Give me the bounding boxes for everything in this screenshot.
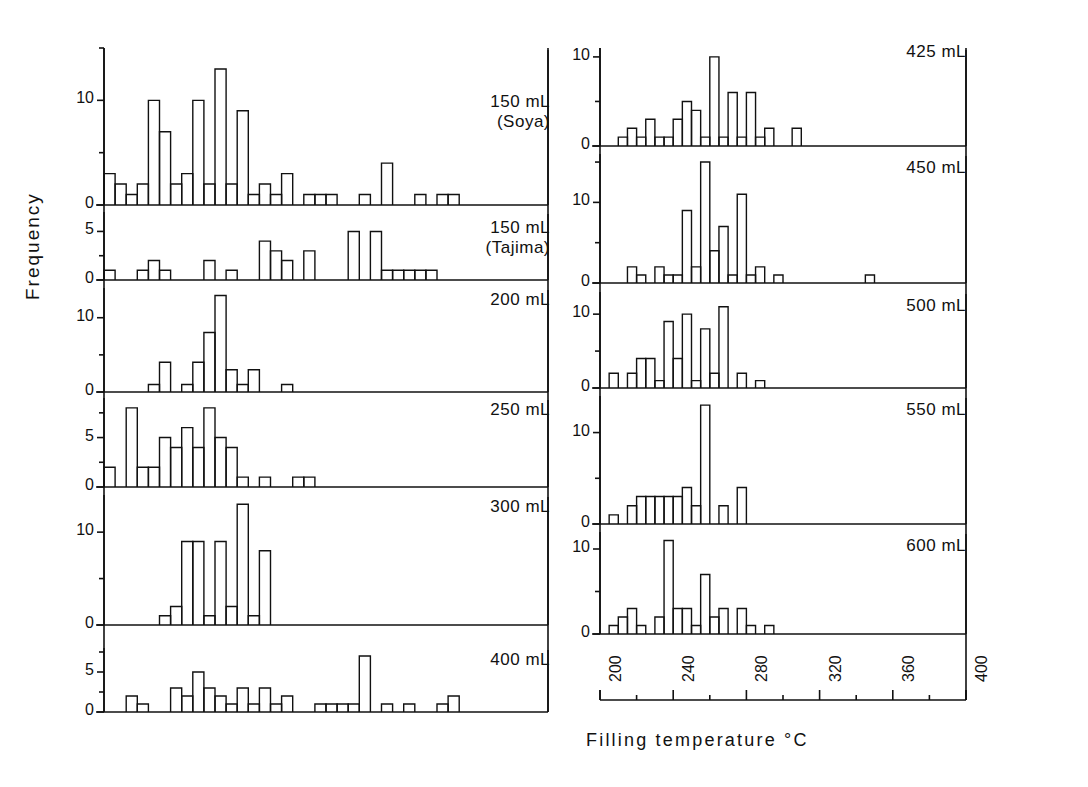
panel-label: 150 mL(Soya): [440, 92, 550, 132]
histogram-bar: [382, 704, 393, 712]
y-tick-label: 10: [70, 307, 94, 325]
histogram-bar: [148, 261, 159, 280]
histogram-bar: [237, 688, 248, 712]
histogram-bar: [348, 231, 359, 280]
histogram-bar: [701, 405, 710, 524]
histogram-bar: [248, 195, 259, 205]
y-tick-label: 10: [566, 46, 590, 64]
panel-label-line1: 200 mL: [490, 290, 550, 309]
histogram-bar: [710, 373, 719, 388]
histogram-bar: [756, 267, 765, 283]
histogram-bar: [326, 704, 337, 712]
histogram-bar: [126, 696, 137, 712]
histogram-bar: [664, 497, 673, 524]
histogram-bar: [126, 408, 137, 487]
panel-label-line1: 500 mL: [906, 296, 966, 315]
histogram-bar: [237, 111, 248, 205]
panel-label: 600 mL: [856, 536, 966, 556]
histogram-bar: [701, 575, 710, 635]
histogram-bar: [248, 616, 259, 625]
histogram-bar: [655, 381, 664, 388]
histogram-bar: [315, 704, 326, 712]
histogram-bar: [618, 137, 627, 146]
panel-label-line1: 400 mL: [490, 650, 550, 669]
histogram-bar: [404, 704, 415, 712]
histogram-bar: [271, 195, 282, 205]
histogram-bar: [682, 210, 691, 283]
histogram-bar: [664, 137, 673, 146]
histogram-bar: [737, 194, 746, 283]
histogram-bar: [655, 267, 664, 283]
histogram-bar: [737, 609, 746, 635]
panel-label: 500 mL: [856, 296, 966, 316]
histogram-bar: [237, 385, 248, 392]
panel-label-line2: (Soya): [440, 112, 550, 132]
histogram-bar: [382, 270, 393, 280]
histogram-bar: [664, 275, 673, 283]
y-tick-label: 0: [70, 701, 94, 719]
histogram-bar: [637, 137, 646, 146]
histogram-bar: [415, 195, 426, 205]
histogram-bar: [226, 704, 237, 712]
histogram-bar: [160, 616, 171, 625]
histogram-bar: [746, 275, 755, 283]
histogram-bar: [765, 626, 774, 635]
histogram-bar: [865, 275, 874, 283]
histogram-bar: [282, 174, 293, 205]
histogram-bar: [282, 696, 293, 712]
histogram-bar: [382, 163, 393, 205]
histogram-bar: [271, 704, 282, 712]
histogram-bar: [193, 447, 204, 487]
histogram-bar: [315, 195, 326, 205]
histogram-bar: [171, 184, 182, 205]
histogram-bar: [348, 704, 359, 712]
y-tick-label: 0: [566, 272, 590, 290]
histogram-bar: [673, 119, 682, 146]
histogram-bar: [609, 515, 618, 524]
histogram-bar: [226, 184, 237, 205]
panel-label-line1: 550 mL: [906, 400, 966, 419]
histogram-bar: [646, 497, 655, 524]
histogram-bar: [710, 57, 719, 146]
histogram-bar: [248, 370, 259, 392]
histogram-bar: [126, 195, 137, 205]
histogram-bar: [426, 270, 437, 280]
histogram-bar: [646, 358, 655, 388]
histogram-bar: [215, 69, 226, 205]
histogram-bar: [737, 137, 746, 146]
histogram-bar: [637, 358, 646, 388]
histogram-bar: [215, 696, 226, 712]
histogram-bar: [204, 408, 215, 487]
histogram-bar: [627, 373, 636, 388]
y-tick-label: 0: [70, 194, 94, 212]
histogram-bar: [701, 137, 710, 146]
histogram-bar: [646, 119, 655, 146]
histogram-bar: [293, 477, 304, 487]
histogram-bar: [226, 606, 237, 625]
histogram-bar: [437, 704, 448, 712]
histogram-bar: [226, 447, 237, 487]
y-tick-label: 0: [70, 476, 94, 494]
histogram-bar: [792, 128, 801, 146]
histogram-bar: [193, 362, 204, 392]
x-tick-label: 320: [827, 655, 845, 682]
histogram-bar: [664, 541, 673, 635]
x-axis: [600, 690, 966, 700]
histogram-bar: [137, 270, 148, 280]
histogram-bar: [182, 541, 193, 625]
x-tick-label: 240: [680, 655, 698, 682]
histogram-bar: [259, 477, 270, 487]
histogram-bar: [756, 381, 765, 388]
histogram-bar: [104, 174, 115, 205]
histogram-bar: [774, 275, 783, 283]
histogram-bar: [655, 137, 664, 146]
histogram-bar: [226, 270, 237, 280]
y-tick-label: 5: [70, 661, 94, 679]
histogram-bar: [359, 195, 370, 205]
histogram-bar: [115, 184, 126, 205]
histogram-bar: [160, 132, 171, 205]
panel-label: 150 mL(Tajima): [440, 218, 550, 258]
histogram-bar: [193, 672, 204, 712]
histogram-bar: [673, 358, 682, 388]
histogram-bar: [304, 251, 315, 280]
